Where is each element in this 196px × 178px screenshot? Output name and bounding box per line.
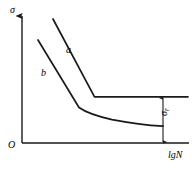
curve-a bbox=[53, 19, 188, 97]
sigma-r-label: σr bbox=[159, 108, 171, 116]
sigma-r-symbol: σ bbox=[158, 111, 169, 116]
curve-b-label: b bbox=[41, 68, 46, 78]
origin-label: O bbox=[8, 140, 15, 150]
curve-b bbox=[38, 40, 163, 126]
curve-a-label: a bbox=[66, 45, 71, 55]
y-axis-label: σ bbox=[10, 5, 15, 15]
plot-area bbox=[0, 0, 196, 178]
fatigue-sn-curve-figure: σ lgN O a b σr bbox=[0, 0, 196, 178]
x-axis-label: lgN bbox=[168, 150, 182, 160]
sigma-r-subscript: r bbox=[163, 108, 171, 111]
